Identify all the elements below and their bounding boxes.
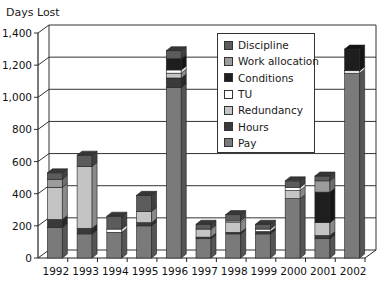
bar-segment <box>137 211 152 222</box>
x-tick-label: 1995 <box>132 265 159 277</box>
legend-item-pay: Pay <box>224 135 314 151</box>
bar-segment <box>77 234 92 258</box>
bar-segment <box>315 236 330 239</box>
bar-segment <box>345 71 360 73</box>
x-tick-label: 1993 <box>72 265 99 277</box>
bar-segment <box>107 232 122 258</box>
bar-segment-side <box>270 230 275 258</box>
bar-segment <box>77 228 92 234</box>
swatch-redundancy <box>224 106 233 115</box>
x-tick-label: 1997 <box>191 265 218 277</box>
bar-segment <box>226 223 241 233</box>
bar-segment <box>255 224 270 229</box>
legend-item-discipline: Discipline <box>224 37 314 53</box>
swatch-work-allocation <box>224 57 233 66</box>
swatch-pay <box>224 138 233 147</box>
legend-item-conditions: Conditions <box>224 70 314 86</box>
bar-segment <box>285 191 300 199</box>
bar-segment <box>47 227 62 258</box>
bar-segment <box>255 234 270 258</box>
bar-segment <box>196 224 211 229</box>
swatch-tu <box>224 90 233 99</box>
bar-segment <box>196 229 211 237</box>
y-tick-label: 800 <box>12 123 32 135</box>
bar-segment-side <box>62 223 67 258</box>
bar-segment-side <box>152 222 157 258</box>
bar-segment <box>226 215 241 221</box>
bar-segment <box>166 78 181 88</box>
y-axis-title: Days Lost <box>6 6 60 19</box>
legend-item-work-allocation: Work allocation <box>224 53 314 69</box>
bar-segment <box>47 187 62 219</box>
bar-segment <box>166 73 181 78</box>
bar-segment-side <box>92 230 97 258</box>
bar-segment <box>315 239 330 258</box>
swatch-hours <box>224 122 233 131</box>
chart-legend: Discipline Work allocation Conditions TU… <box>217 33 315 153</box>
bar-segment <box>345 49 360 71</box>
bar-segment-side <box>360 69 365 258</box>
legend-item-redundancy: Redundancy <box>224 102 314 118</box>
bar-segment <box>226 234 241 258</box>
x-tick-label: 1998 <box>221 265 248 277</box>
bar-segment <box>315 223 330 236</box>
bar-segment <box>47 219 62 227</box>
bar-segment-side <box>62 183 67 219</box>
bar-segment <box>315 181 330 192</box>
bar-segment <box>137 223 152 226</box>
bar-segment <box>166 70 181 73</box>
x-tick-label: 2001 <box>310 265 337 277</box>
bar-segment <box>47 173 62 179</box>
bar-segment <box>315 176 330 181</box>
swatch-conditions <box>224 73 233 82</box>
bar-segment <box>166 51 181 59</box>
floor-right-edge <box>365 250 376 258</box>
y-tick-label: 600 <box>12 156 32 168</box>
bar-segment-side <box>330 188 335 223</box>
bar-segment <box>285 199 300 258</box>
bar-segment <box>166 88 181 258</box>
bar-segment-side <box>92 162 97 228</box>
bar-segment <box>77 155 92 166</box>
bar-segment-side <box>122 228 127 258</box>
y-tick-label: 1,000 <box>2 91 32 103</box>
bar-segment <box>107 216 122 229</box>
x-tick-label: 1992 <box>42 265 69 277</box>
x-tick-label: 1999 <box>251 265 278 277</box>
bar-segment <box>77 166 92 228</box>
gridline-side <box>38 154 49 162</box>
bar-segment-side <box>360 45 365 71</box>
x-tick-label: 1994 <box>102 265 129 277</box>
y-tick-label: 0 <box>25 252 32 264</box>
bar-segment <box>137 226 152 258</box>
bar-segment <box>107 229 122 232</box>
bar-segment <box>255 231 270 233</box>
y-tick-label: 400 <box>12 188 32 200</box>
stacked-bar-chart: 02004006008001,0001,2001,400199219931994… <box>0 0 386 290</box>
legend-item-tu: TU <box>224 86 314 102</box>
bar-segment <box>166 59 181 70</box>
bar-segment <box>345 73 360 258</box>
gridline-side <box>38 57 49 65</box>
bar-segment <box>47 179 62 187</box>
bar-segment-side <box>300 195 305 258</box>
bar-segment-side <box>241 230 246 258</box>
bar-segment <box>285 187 300 190</box>
y-tick-label: 1,400 <box>2 27 32 39</box>
bar-segment-side <box>181 84 186 258</box>
y-tick-label: 200 <box>12 220 32 232</box>
x-tick-label: 1996 <box>161 265 188 277</box>
gridline-side <box>38 89 49 97</box>
x-tick-label: 2000 <box>280 265 307 277</box>
gridline-side <box>38 25 49 33</box>
x-tick-label: 2002 <box>340 265 367 277</box>
bar-segment <box>137 195 152 211</box>
legend-item-hours: Hours <box>224 118 314 134</box>
bar-segment <box>255 229 270 231</box>
y-tick-label: 1,200 <box>2 59 32 71</box>
bar-segment <box>285 181 300 187</box>
gridline-side <box>38 121 49 129</box>
bar-segment <box>196 239 211 258</box>
swatch-discipline <box>224 41 233 50</box>
bar-segment <box>315 192 330 223</box>
